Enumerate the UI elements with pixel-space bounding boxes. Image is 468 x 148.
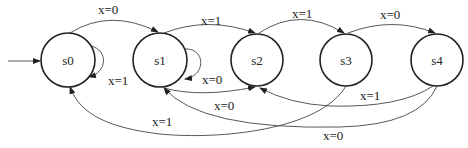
edge-label-s1-s2-bottom: x=0 bbox=[214, 98, 234, 113]
state-s4: s4 bbox=[411, 34, 463, 86]
edge-s3-s4 bbox=[348, 25, 435, 34]
edge-s1-s2-bottom bbox=[164, 87, 255, 93]
state-s3: s3 bbox=[320, 34, 372, 86]
edge-label-s0-s1: x=0 bbox=[98, 2, 118, 17]
state-label-s0: s0 bbox=[62, 53, 74, 68]
edge-label-s2-s3: x=1 bbox=[292, 6, 312, 21]
state-s2: s2 bbox=[231, 34, 283, 86]
edge-label-s3-s4: x=0 bbox=[380, 7, 400, 22]
state-label-s4: s4 bbox=[431, 53, 443, 68]
edge-label-s4-s1: x=0 bbox=[323, 128, 343, 143]
edge-s4-s1 bbox=[164, 86, 437, 127]
state-label-s1: s1 bbox=[154, 53, 166, 68]
state-diagram: x=0 x=1 x=1 x=0 x=0 x=1 x=0 x=1 x=1 x=0 … bbox=[0, 0, 468, 148]
state-label-s3: s3 bbox=[340, 53, 352, 68]
state-s0: s0 bbox=[41, 33, 95, 87]
edge-s4-s2 bbox=[260, 86, 433, 106]
edge-label-s0-self: x=1 bbox=[108, 73, 128, 88]
edge-label-s4-s2: x=1 bbox=[360, 88, 380, 103]
edge-s0-s1 bbox=[70, 20, 158, 33]
edge-s2-s3 bbox=[259, 20, 344, 34]
state-s1: s1 bbox=[133, 33, 187, 87]
state-label-s2: s2 bbox=[251, 53, 263, 68]
edge-label-s1-s2-top: x=1 bbox=[201, 13, 221, 28]
edge-label-s1-self: x=0 bbox=[202, 72, 222, 87]
edge-label-s3-s0: x=1 bbox=[152, 114, 172, 129]
edge-s3-s0 bbox=[70, 86, 346, 136]
